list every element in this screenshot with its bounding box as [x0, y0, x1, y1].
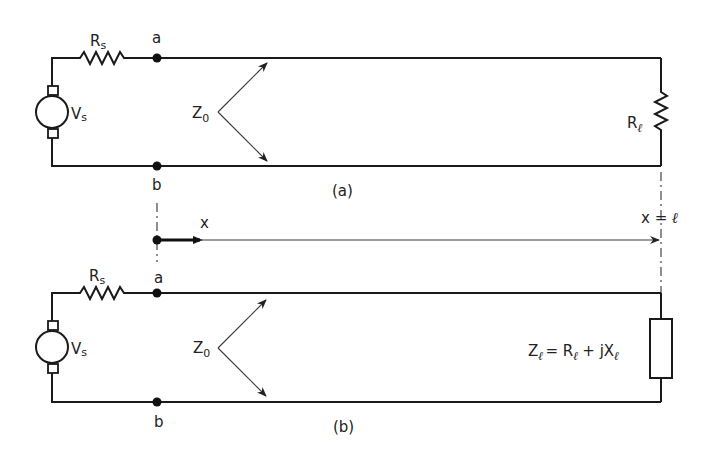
node-a-label: a: [152, 29, 161, 47]
transmission-line-diagram: Rs a b Vs Z0 Rℓ (a) x x = ℓ: [0, 0, 712, 458]
load-equation: Zℓ= Rℓ+ jXℓ: [528, 342, 619, 363]
z0-arrow-down-icon-b: [218, 348, 266, 396]
position-axis: x x = ℓ: [153, 172, 679, 293]
bottom-conductor-a: [52, 127, 661, 166]
node-b-dot: [153, 162, 162, 171]
node-a-label-b: a: [154, 269, 163, 287]
source-resistor-b: [52, 287, 157, 332]
rs-label-a: Rs: [90, 32, 106, 52]
load-label-a: Rℓ: [627, 114, 643, 135]
z0-label-a: Z0: [192, 104, 209, 125]
panel-a: Rs a b Vs Z0 Rℓ (a): [36, 29, 667, 200]
node-a-dot: [153, 54, 162, 63]
z0-arrow-down-icon: [218, 112, 267, 161]
node-b-label-b: b: [154, 413, 164, 431]
panel-b: Rs a b Vs Z0 Zℓ= Rℓ+ jXℓ (b): [36, 267, 672, 436]
axis-x-label: x: [200, 214, 209, 232]
vs-label-a: Vs: [71, 105, 87, 124]
axis-end-label: x = ℓ: [641, 209, 678, 227]
voltage-source-icon-b: [36, 321, 68, 373]
rs-label-b: Rs: [89, 267, 105, 287]
node-a-dot-b: [153, 289, 162, 298]
z0-arrow-up-icon: [218, 63, 267, 112]
z0-label-b: Z0: [193, 339, 210, 360]
load-resistor-a: [655, 58, 667, 166]
vs-label-b: Vs: [71, 340, 87, 359]
source-resistor-a: [52, 52, 157, 97]
node-b-label: b: [152, 176, 162, 194]
z0-arrow-up-icon-b: [218, 300, 266, 348]
caption-b: (b): [333, 418, 354, 436]
caption-a: (a): [332, 182, 353, 200]
load-impedance-box: [650, 319, 672, 378]
bottom-conductor-b: [52, 362, 661, 402]
node-b-dot-b: [153, 398, 162, 407]
voltage-source-icon-a: [36, 86, 68, 138]
